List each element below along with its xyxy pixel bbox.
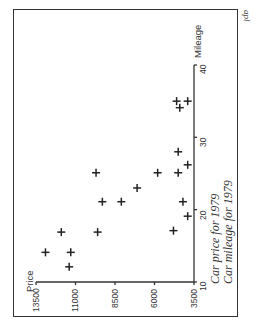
data-point-plus-marker [184, 97, 192, 105]
data-point-plus-marker [41, 248, 49, 256]
data-point-plus-marker [154, 169, 162, 177]
data-point-plus-marker [98, 198, 106, 206]
mileage-axis-title: Mileage [192, 25, 203, 58]
data-point-plus-marker [67, 248, 75, 256]
mileage-tick-10: 10 [198, 282, 208, 291]
data-point-plus-marker [169, 227, 177, 235]
data-point-plus-marker [94, 228, 102, 236]
price-axis-title: Price [24, 270, 35, 292]
price-tick-8500: 8500 [110, 289, 120, 308]
data-point-plus-marker [65, 263, 73, 271]
caption-mileage: Car mileage for 1979 [221, 180, 236, 284]
data-point-plus-marker [184, 161, 192, 169]
data-point-plus-marker [179, 198, 187, 206]
price-tick-11000: 11000 [70, 289, 80, 312]
mileage-tick-20: 20 [198, 211, 208, 220]
data-point-plus-marker [133, 184, 141, 192]
mileage-tick-40: 40 [198, 65, 208, 74]
data-point-plus-marker [184, 212, 192, 220]
price-tick-6000: 6000 [149, 289, 159, 308]
price-tick-3500: 3500 [189, 289, 199, 308]
data-point-plus-marker [117, 198, 125, 206]
mileage-tick-30: 30 [198, 138, 208, 147]
data-point-plus-marker [174, 148, 182, 156]
corner-mark: apl [242, 10, 252, 22]
data-point-plus-marker [57, 228, 65, 236]
data-point-plus-marker [174, 169, 182, 177]
data-point-plus-marker [92, 169, 100, 177]
